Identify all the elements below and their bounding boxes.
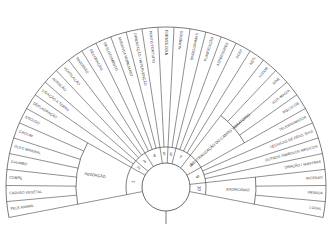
item-label: PONTO FORTUITO bbox=[148, 31, 155, 64]
item-label: VENTILAÇÃO bbox=[63, 65, 82, 86]
item-divider bbox=[256, 185, 326, 186]
item-label: NETI bbox=[249, 57, 257, 66]
sector-number: 9 bbox=[195, 175, 201, 179]
item-label: CAOLIM bbox=[18, 129, 33, 138]
item-label: COBRE bbox=[9, 176, 23, 181]
item-label: LUDOR bbox=[258, 66, 270, 79]
item-divider bbox=[56, 71, 138, 158]
group-label: EXORCISMO bbox=[226, 187, 249, 192]
item-label: XINE bbox=[272, 76, 281, 85]
item-label: LOCAL bbox=[309, 205, 321, 211]
sector-boundary bbox=[172, 32, 206, 164]
item-label: TELEBRAMADOR bbox=[278, 115, 307, 132]
item-label: CHUMBO bbox=[11, 160, 28, 167]
group-arc bbox=[254, 177, 256, 204]
item-label: FORMOLOGIA bbox=[164, 30, 168, 55]
sector-boundary bbox=[190, 169, 325, 184]
group-label: ABSORÇÃO bbox=[84, 171, 106, 179]
item-label: ORIENTAÇÃO / INTERVENÇÃO bbox=[133, 33, 149, 87]
item-label: ESCUDO bbox=[25, 115, 41, 126]
item-label: DESLOCAMENTO bbox=[103, 42, 119, 72]
sector-boundary bbox=[27, 108, 145, 175]
item-label: ÓLEO MINERAL bbox=[14, 143, 42, 155]
item-label: DEFLAGRAÇÃO bbox=[32, 101, 58, 120]
item-label: PELE ANIMAL bbox=[10, 204, 34, 211]
sector-number: 10 bbox=[197, 186, 202, 192]
radial-fan-diagram: 1ABSORÇÃOPELE ANIMALCARVÃO VEGETALCOBREC… bbox=[0, 0, 332, 230]
item-divider bbox=[228, 71, 276, 122]
item-label: DECORAÇÃO bbox=[89, 48, 105, 71]
sector-number: 1 bbox=[130, 180, 135, 184]
item-label: MUDANÇA MOBILIÁRIO bbox=[117, 37, 133, 77]
item-divider bbox=[7, 195, 77, 201]
sector-number: 7 bbox=[178, 154, 183, 160]
item-label: INCENSO bbox=[306, 176, 323, 181]
item-divider bbox=[158, 27, 164, 147]
sector-number: 3 bbox=[142, 159, 148, 165]
sector-number: 6 bbox=[169, 151, 173, 156]
item-divider bbox=[204, 138, 318, 175]
item-label: PURIFICAÇÃO bbox=[202, 36, 214, 62]
item-label: PESSOA bbox=[308, 191, 324, 196]
item-label: NÚMEROS bbox=[177, 30, 184, 50]
item-label: BISCÚLOS bbox=[281, 100, 300, 114]
fan-svg: 1ABSORÇÃOPELE ANIMALCARVÃO VEGETALCOBREC… bbox=[0, 0, 332, 230]
item-label: CARVÃO VEGETAL bbox=[9, 189, 42, 195]
item-label: ASPERSORES bbox=[216, 41, 230, 66]
item-label: ANTI-MAGIA bbox=[271, 88, 291, 105]
sector-number: 2 bbox=[136, 165, 142, 170]
item-label: RADIOGRAMAS bbox=[190, 32, 200, 60]
item-divider bbox=[256, 195, 326, 201]
sector-number: 5 bbox=[163, 151, 166, 156]
item-divider bbox=[35, 95, 133, 164]
item-divider bbox=[6, 185, 76, 186]
sector-number: 4 bbox=[152, 153, 157, 159]
hub-circle bbox=[142, 163, 190, 211]
item-label: SCAP bbox=[235, 48, 244, 59]
